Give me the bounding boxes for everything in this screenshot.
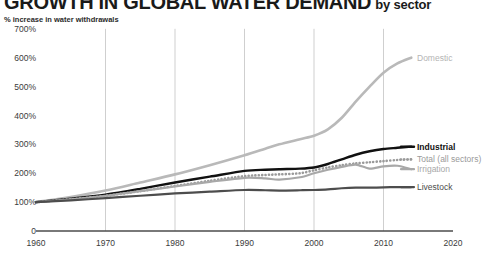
y-tick-label: 200% bbox=[0, 168, 36, 178]
chart-container: GROWTH IN GLOBAL WATER DEMANDby sector %… bbox=[0, 0, 483, 257]
x-tick-label: 1980 bbox=[166, 238, 185, 248]
y-tick-label: 300% bbox=[0, 139, 36, 149]
x-tick-label: 2000 bbox=[305, 238, 324, 248]
series-label-livestock: Livestock bbox=[417, 182, 452, 192]
series-line-livestock bbox=[36, 187, 411, 202]
y-tick-label: 500% bbox=[0, 82, 36, 92]
series-label-industrial: Industrial bbox=[417, 142, 455, 152]
y-axis-ticks: 0100%200%300%400%500%600%700% bbox=[0, 0, 36, 257]
series-lines bbox=[36, 58, 411, 202]
x-tick-label: 1990 bbox=[235, 238, 254, 248]
x-tick-label: 1960 bbox=[27, 238, 46, 248]
series-line-irrigation bbox=[36, 165, 411, 203]
x-tick-label: 2010 bbox=[374, 238, 393, 248]
y-tick-label: 700% bbox=[0, 24, 36, 34]
series-label-total-all-sectors: Total (all sectors) bbox=[417, 154, 481, 164]
series-label-irrigation: Irrigation bbox=[417, 164, 450, 174]
plot-area bbox=[0, 0, 483, 257]
x-tick-label: 2020 bbox=[444, 238, 463, 248]
y-tick-label: 400% bbox=[0, 111, 36, 121]
series-label-domestic: Domestic bbox=[417, 53, 452, 63]
y-tick-label: 600% bbox=[0, 53, 36, 63]
gridlines bbox=[106, 29, 384, 231]
y-tick-label: 100% bbox=[0, 197, 36, 207]
y-tick-label: 0 bbox=[0, 226, 36, 236]
x-tick-label: 1970 bbox=[96, 238, 115, 248]
chart-svg bbox=[0, 0, 483, 257]
